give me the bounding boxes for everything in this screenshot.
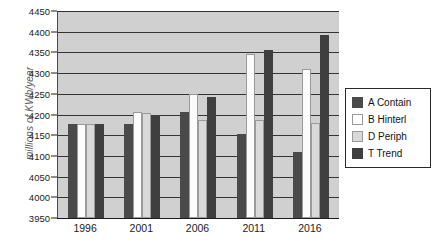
bar[interactable]: [77, 124, 86, 218]
legend-item[interactable]: B Hinterl: [352, 111, 426, 128]
bar[interactable]: [293, 152, 302, 218]
y-axis-tick-label: 4150: [18, 130, 50, 141]
bar[interactable]: [264, 50, 273, 218]
y-axis-tick-label: 4350: [18, 47, 50, 58]
bars-layer: [58, 11, 339, 218]
legend-swatch-icon: [352, 114, 363, 125]
bar-group: [227, 11, 283, 218]
y-axis-tick-mark: [51, 11, 57, 12]
y-axis-tick-label: 4400: [18, 26, 50, 37]
bar-group: [170, 11, 226, 218]
bar[interactable]: [255, 120, 264, 218]
y-axis-tick-label: 4000: [18, 192, 50, 203]
bar[interactable]: [320, 35, 329, 218]
y-axis-tick-mark: [51, 155, 57, 156]
legend-item[interactable]: D Periph: [352, 128, 426, 145]
bar[interactable]: [311, 123, 320, 218]
chart-legend: A ContainB HinterlD PeriphT Trend: [345, 88, 431, 168]
legend-item[interactable]: T Trend: [352, 145, 426, 162]
y-axis-tick-label: 4200: [18, 109, 50, 120]
x-axis-tick-label: 2001: [130, 222, 153, 234]
y-axis-tick-label: 4050: [18, 171, 50, 182]
bar[interactable]: [151, 115, 160, 219]
bar[interactable]: [142, 113, 151, 218]
y-axis-tick-mark: [51, 73, 57, 74]
legend-item-label: A Contain: [368, 97, 411, 108]
legend-item-label: T Trend: [368, 148, 402, 159]
legend-item-label: D Periph: [368, 131, 407, 142]
x-axis-tick-label: 2006: [186, 222, 209, 234]
y-axis-tick-mark: [51, 218, 57, 219]
bar[interactable]: [237, 134, 246, 218]
bar[interactable]: [124, 124, 133, 218]
y-axis-tick-mark: [51, 176, 57, 177]
bar-group: [114, 11, 170, 218]
y-axis-tick-label: 4450: [18, 6, 50, 17]
x-axis-line: [57, 218, 339, 219]
y-axis-tick-label: 4100: [18, 150, 50, 161]
legend-swatch-icon: [352, 131, 363, 142]
legend-swatch-icon: [352, 97, 363, 108]
bar[interactable]: [189, 94, 198, 218]
x-axis-tick-label: 2016: [298, 222, 321, 234]
bar[interactable]: [86, 124, 95, 218]
bar[interactable]: [246, 54, 255, 218]
y-axis-tick-label: 4250: [18, 88, 50, 99]
legend-item-label: B Hinterl: [368, 114, 406, 125]
y-axis-tick-mark: [51, 93, 57, 94]
x-axis-tick-label: 1996: [73, 222, 96, 234]
y-axis-tick-label: 3950: [18, 213, 50, 224]
y-axis-tick-mark: [51, 31, 57, 32]
y-axis-tick-mark: [51, 135, 57, 136]
legend-swatch-icon: [352, 148, 363, 159]
y-axis-tick-labels: 3950400040504100415042004250430043504400…: [18, 11, 50, 218]
bar[interactable]: [95, 124, 104, 218]
y-axis-tick-label: 4300: [18, 68, 50, 79]
bar-group: [283, 11, 339, 218]
y-axis-tick-mark: [51, 197, 57, 198]
plot-area: [57, 11, 339, 218]
bar[interactable]: [180, 112, 189, 218]
x-axis-tick-labels: 19962001200620112016: [57, 222, 339, 246]
y-axis-tick-mark: [51, 52, 57, 53]
bar[interactable]: [207, 97, 216, 218]
legend-item[interactable]: A Contain: [352, 94, 426, 111]
bar-group: [58, 11, 114, 218]
bar[interactable]: [68, 124, 77, 218]
bar[interactable]: [133, 112, 142, 218]
x-axis-tick-label: 2011: [242, 222, 265, 234]
bar-chart: millions of KWh/year 3950400040504100415…: [0, 0, 435, 252]
bar[interactable]: [302, 69, 311, 218]
bar[interactable]: [198, 120, 207, 218]
y-axis-tick-mark: [51, 114, 57, 115]
